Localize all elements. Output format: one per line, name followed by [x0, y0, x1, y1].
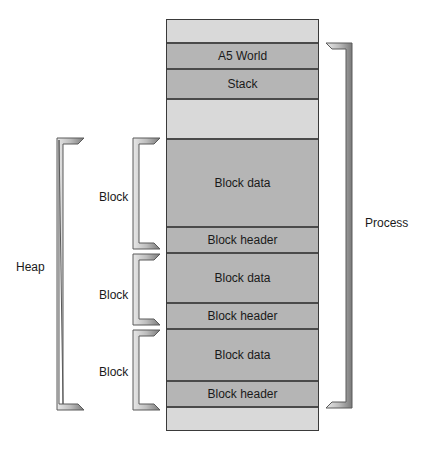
block-3-bracket-icon [133, 330, 160, 410]
heap-bracket-icon [57, 138, 84, 410]
block-2-label: Block [99, 288, 128, 302]
heap-label: Heap [16, 260, 45, 274]
block-1-label: Block [99, 190, 128, 204]
block-1-bracket-icon [133, 138, 160, 249]
block-3-label: Block [99, 365, 128, 379]
process-label: Process [365, 216, 408, 230]
process-bracket-icon [326, 43, 352, 408]
block-2-bracket-icon [133, 254, 160, 325]
brackets-layer [0, 0, 423, 449]
